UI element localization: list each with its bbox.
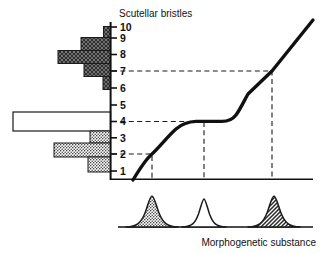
low-morphogen-distribution	[126, 196, 178, 227]
y-axis-title: Scutellar bristles	[119, 8, 192, 19]
bristle-histogram	[13, 27, 111, 173]
bar-3	[90, 131, 111, 143]
y-axis-tick-labels: 1 2 3 4 5 6 7 8 9 10	[120, 21, 132, 177]
mid-morphogen-distribution	[182, 199, 226, 227]
canalization-figure: 1 2 3 4 5 6 7 8 9 10 Scutellar bristles …	[0, 0, 321, 254]
bar-4	[13, 112, 111, 131]
y-tick-label-8: 8	[120, 48, 126, 60]
guide-lines	[112, 71, 272, 179]
bar-1	[88, 157, 111, 172]
y-tick-label-9: 9	[120, 32, 126, 44]
y-tick-label-3: 3	[120, 132, 126, 144]
histogram-bars-high-group	[58, 27, 111, 90]
bar-10	[104, 27, 111, 38]
y-tick-label-6: 6	[120, 82, 126, 94]
high-morphogen-distribution	[248, 196, 300, 227]
response-curve-axes	[111, 22, 313, 180]
bar-8	[58, 51, 111, 64]
guide-line-bristles-8	[112, 71, 272, 179]
y-tick-label-4: 4	[120, 115, 126, 127]
y-tick-label-10: 10	[120, 21, 132, 33]
bar-6	[103, 77, 111, 90]
response-curve	[133, 20, 313, 180]
histogram-bars-mid-group	[13, 112, 111, 131]
y-tick-label-1: 1	[120, 165, 126, 177]
morphogen-distributions	[118, 196, 313, 227]
histogram-bars-low-group	[54, 131, 111, 172]
y-tick-label-2: 2	[120, 148, 126, 160]
x-axis-title: Morphogenetic substance	[201, 237, 316, 248]
bar-9	[81, 38, 111, 51]
bar-2	[54, 143, 111, 157]
guide-line-bristles-2	[112, 154, 152, 179]
bar-7	[84, 64, 111, 77]
y-tick-label-5: 5	[120, 99, 126, 111]
y-tick-label-7: 7	[120, 65, 126, 77]
